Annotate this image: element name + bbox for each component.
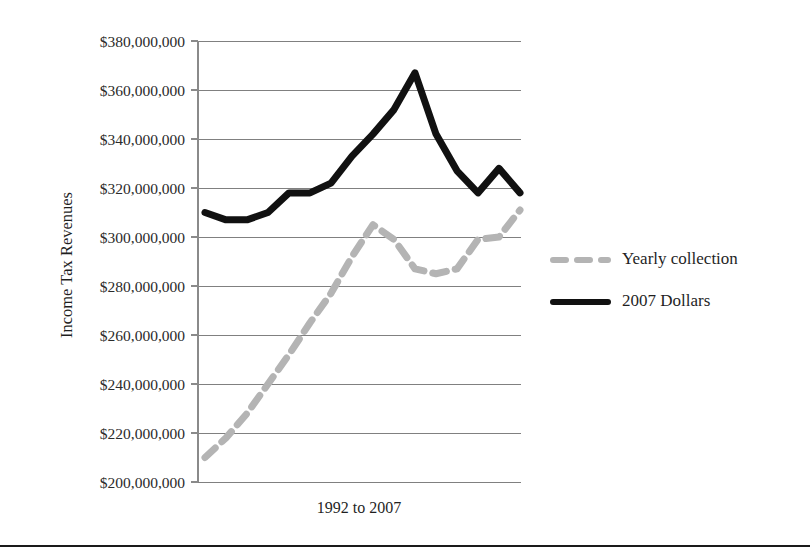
- legend-item-2007-dollars[interactable]: 2007 Dollars: [553, 291, 710, 310]
- legend-label-2007-dollars: 2007 Dollars: [622, 291, 710, 310]
- plot-series: [205, 73, 520, 458]
- y-tick-label-380m: $380,000,000: [100, 33, 186, 50]
- y-tick-label-220m: $220,000,000: [100, 425, 186, 442]
- legend-label-yearly-collection: Yearly collection: [622, 249, 738, 268]
- income-tax-revenues-line-chart: $380,000,000 $360,000,000 $340,000,000 $…: [0, 0, 810, 553]
- y-axis: [191, 41, 198, 482]
- legend-item-yearly-collection[interactable]: Yearly collection: [553, 249, 738, 268]
- y-tick-labels: $380,000,000 $360,000,000 $340,000,000 $…: [100, 33, 186, 491]
- y-tick-label-360m: $360,000,000: [100, 82, 186, 99]
- y-tick-label-300m: $300,000,000: [100, 229, 186, 246]
- y-tick-label-260m: $260,000,000: [100, 327, 186, 344]
- x-axis-title: 1992 to 2007: [317, 499, 401, 516]
- y-tick-label-280m: $280,000,000: [100, 278, 186, 295]
- chart-legend: Yearly collection 2007 Dollars: [553, 249, 738, 310]
- series-line-2007-dollars: [205, 73, 520, 220]
- y-axis-title: Income Tax Revenues: [57, 192, 76, 338]
- y-tick-label-320m: $320,000,000: [100, 180, 186, 197]
- chart-figure: $380,000,000 $360,000,000 $340,000,000 $…: [0, 0, 810, 553]
- y-tick-label-200m: $200,000,000: [100, 474, 186, 491]
- y-tick-label-240m: $240,000,000: [100, 376, 186, 393]
- y-tick-label-340m: $340,000,000: [100, 131, 186, 148]
- series-line-yearly-collection: [205, 210, 520, 457]
